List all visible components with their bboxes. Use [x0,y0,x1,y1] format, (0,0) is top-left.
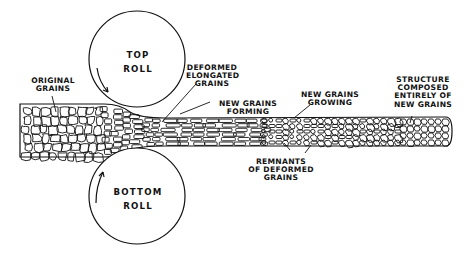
bottom-roll-label-line1: BOTTOM [110,185,166,199]
label-remnants-of-deformed-grains: REMNANTS OF DEFORMED GRAINS [248,158,314,183]
rolling-diagram: TOP ROLL BOTTOM ROLL ORIGINAL GRAINS DEF… [0,0,472,256]
label-deformed-elongated-grains: DEFORMED ELONGATED GRAINS [186,64,238,89]
top-roll-label: TOP ROLL [115,48,161,76]
label-structure-new-grains: STRUCTURE COMPOSED ENTIRELY OF NEW GRAIN… [388,76,458,109]
label-new-grains-growing: NEW GRAINS GROWING [300,91,360,107]
label-new-grains-forming: NEW GRAINS FORMING [218,100,278,116]
label-original-grains: ORIGINAL GRAINS [28,77,78,93]
bottom-roll-label: BOTTOM ROLL [110,185,166,213]
diagram-artwork [0,0,472,256]
top-roll-label-line1: TOP [115,48,161,62]
bottom-roll-label-line2: ROLL [110,199,166,213]
top-roll-label-line2: ROLL [115,62,161,76]
